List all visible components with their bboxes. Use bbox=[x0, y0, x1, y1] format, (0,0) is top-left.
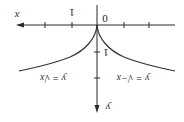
curve-left-label: y = √x bbox=[39, 73, 67, 84]
y-tick-label: 1 bbox=[103, 47, 109, 59]
curve-right-label: y = √−x bbox=[116, 73, 150, 84]
x-axis-label: x bbox=[14, 10, 20, 22]
origin-label: 0 bbox=[102, 13, 108, 25]
curve-left bbox=[19, 25, 97, 71]
x-axis-arrow-icon bbox=[16, 23, 24, 28]
x-axis bbox=[16, 22, 175, 28]
y-axis-label: y bbox=[105, 102, 111, 114]
y-axis-arrow-icon bbox=[95, 105, 100, 113]
y-axis bbox=[94, 5, 100, 113]
x-tick-label: 1 bbox=[69, 7, 75, 19]
function-graph: x 1 0 1 y y = √x y = √−x bbox=[0, 0, 184, 122]
